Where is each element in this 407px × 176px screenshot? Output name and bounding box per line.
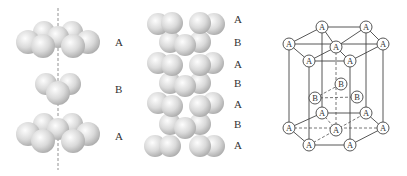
layer-label: B xyxy=(234,77,241,89)
exploded-layers-panel: A B A xyxy=(16,8,123,170)
layer-label: A xyxy=(234,98,242,110)
svg-text:A: A xyxy=(306,140,313,150)
atom-b: B xyxy=(351,91,363,103)
atom-a: A xyxy=(330,41,342,53)
atom-a: A xyxy=(316,21,328,33)
layer-label: A xyxy=(234,58,242,70)
svg-text:A: A xyxy=(286,39,293,49)
atom-a: A xyxy=(330,124,342,136)
svg-text:A: A xyxy=(380,123,387,133)
stacked-layers-panel: A B A B A B A xyxy=(144,12,242,157)
atom-a: A xyxy=(303,139,315,151)
svg-text:A: A xyxy=(363,108,370,118)
atom-a: A xyxy=(283,122,295,134)
atom-a: A xyxy=(344,139,356,151)
svg-text:B: B xyxy=(312,93,318,103)
hcp-atoms: A A A A A A A B B B A A A A A A A xyxy=(283,21,389,151)
hcp-diagram: A B A A B xyxy=(0,0,407,176)
layer-a-bottom xyxy=(16,113,100,153)
layer-label: A xyxy=(115,130,123,142)
svg-text:A: A xyxy=(347,56,354,66)
svg-text:A: A xyxy=(380,39,387,49)
svg-text:A: A xyxy=(347,140,354,150)
svg-text:B: B xyxy=(354,92,360,102)
svg-text:A: A xyxy=(306,56,313,66)
atom-a: A xyxy=(303,55,315,67)
svg-text:A: A xyxy=(333,42,340,52)
atom-a: A xyxy=(360,21,372,33)
layer-label: B xyxy=(115,83,122,95)
svg-text:B: B xyxy=(338,79,344,89)
svg-text:A: A xyxy=(333,125,340,135)
layer-label: A xyxy=(234,139,242,151)
atom-a: A xyxy=(344,55,356,67)
layer-label: A xyxy=(115,36,123,48)
atom-a: A xyxy=(377,38,389,50)
svg-text:A: A xyxy=(363,22,370,32)
layer-label: B xyxy=(234,36,241,48)
atom-b: B xyxy=(309,92,321,104)
layer-a-top xyxy=(16,21,100,58)
layer-b-middle xyxy=(35,73,81,105)
atom-a: A xyxy=(316,107,328,119)
atom-a: A xyxy=(360,107,372,119)
atom-a: A xyxy=(283,38,295,50)
atom-b: B xyxy=(335,78,347,90)
layer-label: A xyxy=(234,13,242,25)
svg-text:A: A xyxy=(319,108,326,118)
layer-label: B xyxy=(234,118,241,130)
atom-a: A xyxy=(377,122,389,134)
svg-text:A: A xyxy=(286,123,293,133)
svg-text:A: A xyxy=(319,22,326,32)
